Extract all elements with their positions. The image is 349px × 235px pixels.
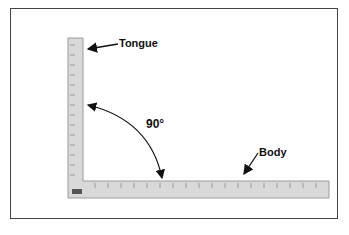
body-label: Body bbox=[259, 146, 287, 158]
body-arrow bbox=[244, 153, 258, 174]
carpenter-square-diagram bbox=[0, 0, 349, 235]
tongue-label: Tongue bbox=[119, 37, 158, 49]
angle-label: 90° bbox=[146, 117, 164, 131]
square-shape bbox=[68, 38, 329, 198]
tongue-arrow bbox=[88, 44, 118, 49]
angle-arc bbox=[88, 105, 162, 178]
